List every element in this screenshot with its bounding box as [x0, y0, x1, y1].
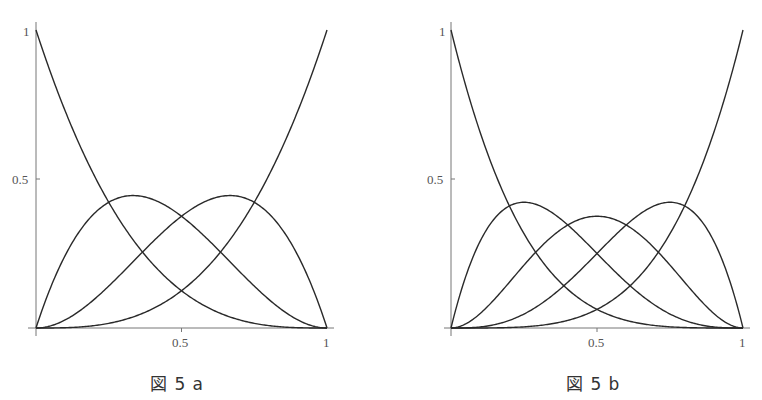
x-tick-label-one-5a: 1 — [323, 335, 330, 350]
y-tick-label-half-5a: 0.5 — [12, 172, 28, 187]
y-tick-label-one-5b: 1 — [439, 24, 446, 39]
curve-b0-4 — [451, 30, 743, 328]
curve-b0-3 — [36, 30, 327, 328]
curve-b2-3 — [36, 196, 327, 328]
y-tick-label-one-5a: 1 — [23, 24, 30, 39]
plot-5a: 1 0.5 0.5 1 — [12, 22, 334, 350]
curves-5b — [451, 30, 743, 328]
figure-canvas: 1 0.5 0.5 1 1 0.5 0.5 1 — [0, 0, 762, 400]
x-tick-label-half-5b: 0.5 — [588, 335, 604, 350]
y-tick-label-half-5b: 0.5 — [427, 172, 443, 187]
plot-5b: 1 0.5 0.5 1 — [427, 22, 750, 350]
caption-5a: 図 5 a — [150, 370, 204, 395]
curve-b4-4 — [451, 30, 743, 328]
caption-5b: 図 5 b — [566, 370, 620, 395]
x-tick-label-one-5b: 1 — [739, 335, 746, 350]
x-tick-label-half-5a: 0.5 — [172, 335, 188, 350]
curve-b2-4 — [451, 216, 743, 328]
curve-b3-3 — [36, 30, 327, 328]
curves-5a — [36, 30, 327, 328]
